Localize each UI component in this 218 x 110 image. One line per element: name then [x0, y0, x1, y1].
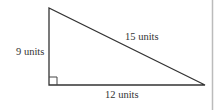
left-side-label: 9 units — [16, 46, 44, 57]
hypotenuse-label: 15 units — [125, 31, 159, 42]
right-triangle — [49, 8, 205, 85]
triangle-diagram: 9 units 15 units 12 units — [0, 0, 218, 110]
right-angle-marker — [49, 77, 57, 85]
bottom-side-label: 12 units — [105, 89, 139, 100]
